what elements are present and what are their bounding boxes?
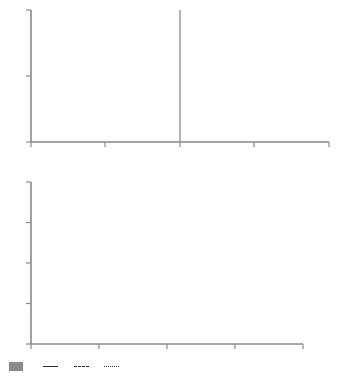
dashed-line-swatch-icon (74, 366, 89, 367)
legend-item-remain-single (43, 366, 61, 367)
selection-swatch-icon (9, 362, 23, 371)
legend-item-married (104, 366, 122, 367)
chart-panel-top (0, 0, 345, 175)
legend-item-selection (9, 362, 27, 371)
legend-item-married-later (74, 366, 92, 367)
top-chart-svg (0, 0, 345, 175)
chart-legend (0, 358, 345, 374)
figure-container (0, 0, 345, 392)
dotted-line-swatch-icon (104, 366, 119, 367)
solid-line-swatch-icon (43, 366, 58, 367)
